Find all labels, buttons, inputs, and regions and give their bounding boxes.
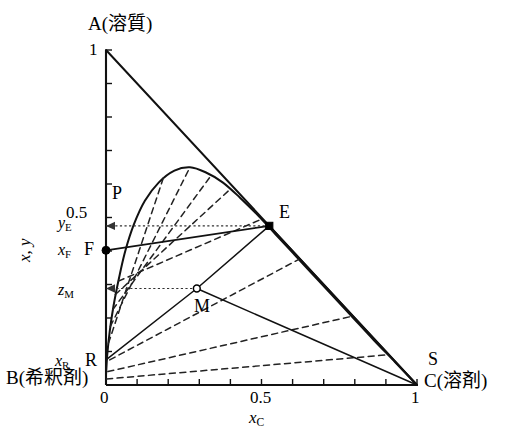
vertex-label-A: A(溶質): [88, 14, 152, 33]
vertex-label-C: C(溶剤): [424, 371, 487, 390]
series-tie-line-4: [115, 189, 230, 295]
marker-F: [102, 246, 110, 254]
point-label-P: P: [112, 184, 122, 202]
marker-M: [193, 285, 200, 292]
vertex-label-S: S: [428, 350, 438, 368]
value-label-xF: xF: [58, 242, 71, 260]
arrow-M-to-zM-head: [106, 284, 115, 292]
value-label-yE: yE: [58, 215, 72, 233]
series-binodal-curve: [106, 167, 417, 385]
point-label-E: E: [279, 203, 290, 221]
x-axis-title-sub: C: [257, 416, 265, 429]
x-tick-label-0: 0: [100, 389, 109, 406]
x-axis-title-base: x: [249, 408, 257, 427]
marker-E: [266, 222, 273, 229]
arrow-E-to-yE-head: [106, 222, 115, 230]
x-tick-label-05: 0.5: [250, 389, 271, 406]
value-label-xR-sub: R: [62, 359, 69, 371]
value-label-zM-sub: M: [64, 288, 74, 300]
series-line-M-S: [197, 289, 417, 385]
vertex-label-B: B(希釈剤): [6, 368, 88, 387]
x-axis-title: xC: [249, 409, 264, 429]
point-label-R: R: [85, 351, 97, 369]
x-tick-label-1: 1: [411, 389, 420, 406]
y-axis-title: x, y: [16, 238, 33, 262]
value-label-xF-sub: F: [65, 248, 71, 260]
value-label-xR: xR: [55, 353, 69, 371]
series-tie-line-7: [108, 316, 352, 371]
value-label-yE-sub: E: [65, 221, 72, 233]
value-label-zM: zM: [58, 282, 74, 300]
series-tie-line-8: [107, 355, 388, 379]
y-tick-label-1: 1: [89, 41, 98, 58]
point-label-F: F: [84, 240, 94, 258]
point-label-M: M: [194, 297, 210, 315]
